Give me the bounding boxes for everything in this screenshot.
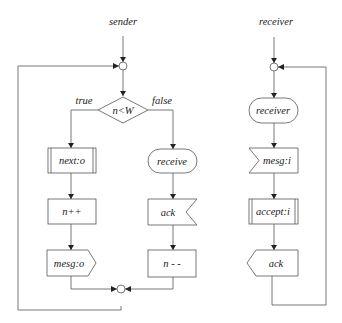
terminator-label: receive [157,156,187,167]
process-label: n++ [62,206,81,217]
process-n-increment: n++ [48,199,96,224]
send-signal-ack: ack [247,250,298,276]
receive-signal-label: ack [161,207,176,218]
terminator-receiver: receiver [249,98,298,123]
decision-label: n<W [112,105,134,116]
arrowhead-icon [120,91,126,96]
arrowhead-icon [120,57,126,62]
terminator-label: receiver [256,105,291,116]
receive-signal-mesg-i: mesg:i [249,148,298,173]
arrowhead-icon [170,245,176,250]
false-label: false [152,95,172,106]
process-label: n - - [163,258,181,269]
procedure-label: accept:i [256,206,290,217]
connector [125,277,173,289]
arrowhead-icon [271,93,277,98]
arrowhead-icon [271,194,277,199]
receiver-merge-node [270,63,278,71]
arrowhead-icon [271,245,277,250]
arrowhead-icon [271,58,277,63]
procedure-next-o: next:o [48,148,96,173]
receive-signal-label: mesg:i [263,155,291,166]
connector [71,276,117,289]
true-branch-connector [71,110,98,148]
arrowhead-icon [125,286,131,292]
send-signal-label: ack [269,258,284,269]
false-branch-connector [148,110,173,149]
arrowhead-icon [170,144,176,149]
arrowhead-icon [278,64,284,70]
flowchart-canvas: sender n<W true false next:o n++ mesg:o [0,0,342,323]
arrowhead-icon [113,63,119,69]
arrowhead-icon [68,143,74,148]
receiver-title: receiver [259,16,294,27]
arrowhead-icon [170,194,176,199]
sender-merge-node-bottom [117,285,125,293]
send-signal-mesg-o: mesg:o [47,250,96,276]
arrowhead-icon [271,143,277,148]
sender-merge-node-top [119,62,127,70]
arrowhead-icon [111,286,117,292]
true-label: true [76,95,93,106]
process-n-decrement: n - - [148,250,196,277]
procedure-accept-i: accept:i [249,199,298,224]
procedure-label: next:o [59,155,85,166]
arrowhead-icon [68,245,74,250]
arrowhead-icon [68,194,74,199]
terminator-receive: receive [148,149,197,173]
sender-title: sender [109,16,138,27]
receive-signal-ack: ack [148,199,197,225]
send-signal-label: mesg:o [54,258,84,269]
